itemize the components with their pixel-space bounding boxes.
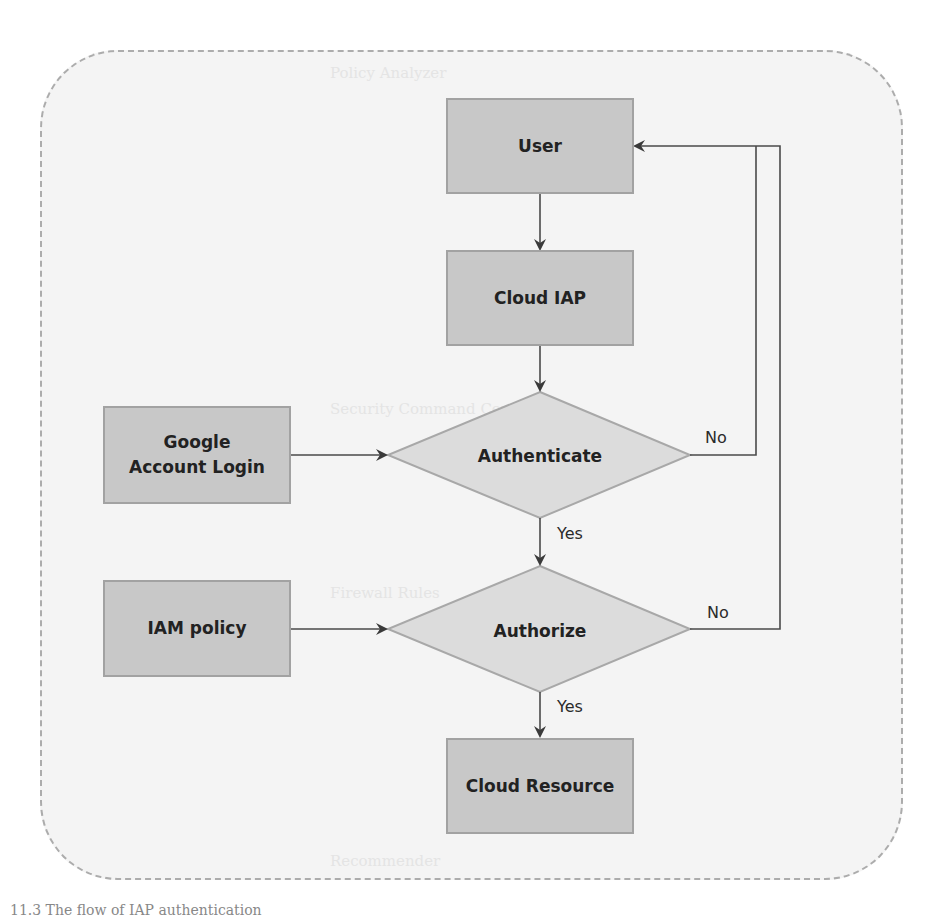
node-user-label: User xyxy=(518,134,562,159)
node-google-account-login: Google Account Login xyxy=(103,406,291,504)
authorize-no-label: No xyxy=(707,603,729,622)
node-cloud-resource-label: Cloud Resource xyxy=(466,774,615,799)
authenticate-yes-label: Yes xyxy=(557,524,583,543)
node-iam-policy-label: IAM policy xyxy=(148,616,247,641)
node-iam-policy: IAM policy xyxy=(103,580,291,677)
authenticate-no-label: No xyxy=(705,428,727,447)
node-google-account-login-label: Google Account Login xyxy=(127,430,267,479)
node-cloud-iap-label: Cloud IAP xyxy=(494,286,586,311)
authorize-yes-label: Yes xyxy=(557,697,583,716)
node-cloud-iap: Cloud IAP xyxy=(446,250,634,346)
figure-caption: 11.3 The flow of IAP authentication xyxy=(10,902,262,918)
node-user: User xyxy=(446,98,634,194)
authorize-label: Authorize xyxy=(494,621,587,641)
node-cloud-resource: Cloud Resource xyxy=(446,738,634,834)
authenticate-label: Authenticate xyxy=(478,446,602,466)
